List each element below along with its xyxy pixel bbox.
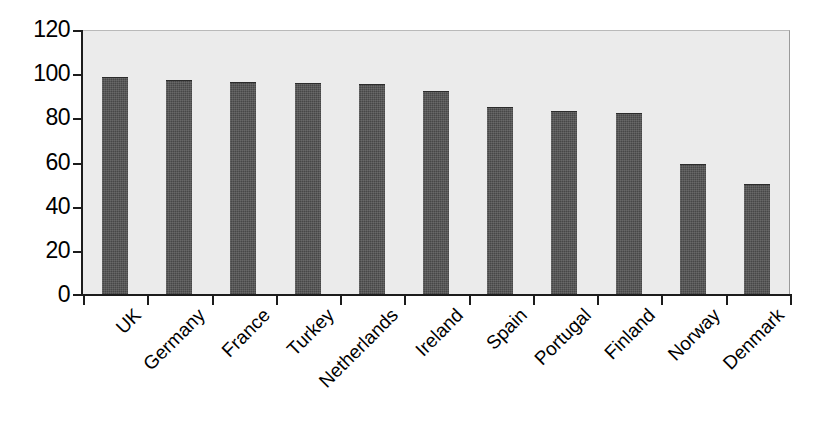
x-axis-label-text: Ireland <box>411 305 466 360</box>
y-tick-label-0: 0 <box>2 283 70 306</box>
x-tick-mark <box>340 296 342 305</box>
x-tick-mark <box>726 296 728 305</box>
bar <box>487 107 513 295</box>
bar-slot <box>147 31 211 295</box>
x-axis-label-text: Turkey <box>283 305 338 360</box>
y-tick-label-40: 40 <box>2 195 70 218</box>
bar-slot <box>276 31 340 295</box>
x-tick-mark <box>404 296 406 305</box>
x-axis-labels: UKGermanyFranceTurkeyNetherlandsIrelandS… <box>83 305 790 423</box>
bar <box>102 77 128 295</box>
y-tick-mark-40 <box>73 207 82 209</box>
bar <box>423 91 449 295</box>
x-tick-mark <box>83 296 85 305</box>
bar <box>680 164 706 295</box>
y-tick-mark-20 <box>73 251 82 253</box>
bar <box>551 111 577 295</box>
bar <box>295 83 321 295</box>
bar-slot <box>597 31 661 295</box>
x-axis-label-text: France <box>218 305 274 361</box>
y-tick-label-120: 120 <box>2 18 70 41</box>
bar-chart: 120 100 80 60 40 20 0 UKGermanyFranceTur… <box>0 0 825 426</box>
bar-slot <box>211 31 275 295</box>
bar-slot <box>468 31 532 295</box>
bars-layer <box>83 31 789 295</box>
bar-slot <box>340 31 404 295</box>
x-tick-mark <box>661 296 663 305</box>
bar <box>230 82 256 295</box>
x-tick-mark <box>212 296 214 305</box>
y-tick-label-100: 100 <box>2 62 70 85</box>
bar-slot <box>83 31 147 295</box>
y-tick-label-80: 80 <box>2 106 70 129</box>
x-axis-label-text: Finland <box>601 305 659 363</box>
bar-slot <box>404 31 468 295</box>
y-tick-label-60: 60 <box>2 151 70 174</box>
x-tick-mark <box>597 296 599 305</box>
x-tick-mark <box>147 296 149 305</box>
x-axis-label-text: Germany <box>140 305 209 374</box>
x-tick-mark <box>790 296 792 305</box>
x-axis-line <box>81 294 792 296</box>
plot-area <box>83 30 790 295</box>
bar <box>616 113 642 295</box>
bar-slot <box>725 31 789 295</box>
x-tick-mark <box>533 296 535 305</box>
x-axis-label-text: Denmark <box>719 305 788 374</box>
y-tick-label-20: 20 <box>2 239 70 262</box>
x-axis-label-text: UK <box>112 305 145 338</box>
y-tick-mark-60 <box>73 163 82 165</box>
x-tick-mark <box>469 296 471 305</box>
x-tick-mark <box>276 296 278 305</box>
bar-slot <box>661 31 725 295</box>
bar <box>166 80 192 295</box>
x-axis-label-text: Portugal <box>531 305 595 369</box>
x-axis-label-text: Norway <box>664 305 724 365</box>
bar-slot <box>532 31 596 295</box>
y-axis-labels: 120 100 80 60 40 20 0 <box>0 0 70 426</box>
y-tick-mark-80 <box>73 118 82 120</box>
x-axis-label-text: Spain <box>482 305 531 354</box>
y-tick-mark-120 <box>73 30 82 32</box>
y-tick-mark-100 <box>73 74 82 76</box>
bar <box>744 184 770 295</box>
bar <box>359 84 385 295</box>
